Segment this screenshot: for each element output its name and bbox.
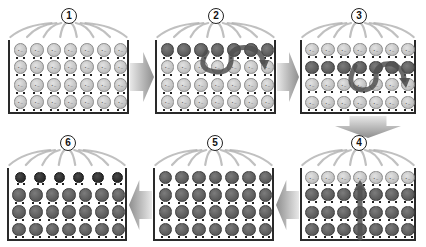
molecule-light: • – [321, 43, 334, 56]
molecule-foot [73, 109, 75, 111]
molecule-face: • – [162, 61, 174, 73]
molecule-light: • – [64, 60, 78, 74]
molecule-foot [178, 184, 180, 186]
molecule-foot [88, 236, 90, 238]
molecule-foot [218, 219, 220, 221]
molecule-foot [411, 184, 413, 186]
molecule-foot [347, 56, 349, 58]
molecule-dark [159, 205, 173, 219]
molecule-face: • – [354, 79, 365, 90]
molecule-face: • – [386, 44, 397, 55]
molecule-foot [356, 74, 358, 76]
molecule-foot [237, 109, 239, 111]
molecule-foot [379, 201, 381, 203]
molecule-foot [315, 219, 317, 221]
molecule-foot [170, 92, 172, 94]
molecule-foot [107, 74, 109, 76]
molecule-foot [264, 74, 266, 76]
molecule-foot [411, 109, 413, 111]
molecule-face: • – [15, 44, 27, 56]
molecule-foot [262, 184, 264, 186]
molecule-light: • – [385, 96, 398, 109]
molecule-light: • – [114, 43, 128, 57]
molecule-dark [192, 188, 206, 202]
molecule-foot [347, 184, 349, 186]
molecule-dark [385, 206, 398, 219]
molecule-foot [270, 57, 272, 59]
molecule-dark [353, 206, 366, 219]
molecule-dark [337, 188, 350, 201]
molecule-light: • – [353, 78, 366, 91]
molecule-darkest [34, 172, 46, 184]
molecule-foot [315, 109, 317, 111]
step-number-badge: 3 [351, 8, 367, 24]
molecule-foot [230, 109, 232, 111]
step-number-badge: 6 [60, 135, 76, 151]
step-number-badge: 1 [61, 8, 77, 24]
molecule-foot [372, 219, 374, 221]
molecule-foot [211, 236, 213, 238]
molecule-face: • – [115, 96, 127, 108]
molecule-foot [315, 56, 317, 58]
molecule-foot [57, 57, 59, 59]
molecule-foot [115, 219, 117, 221]
molecule-foot [372, 56, 374, 58]
molecule-face: • – [178, 61, 190, 73]
molecule-foot [340, 201, 342, 203]
molecule-foot [268, 202, 270, 204]
molecule-foot [187, 109, 189, 111]
molecule-foot [33, 57, 35, 59]
molecule-foot [356, 109, 358, 111]
molecule-foot [211, 219, 213, 221]
molecule-foot [202, 202, 204, 204]
molecule-foot [254, 57, 256, 59]
molecule-foot [388, 201, 390, 203]
molecule-face: • – [245, 61, 257, 73]
molecule-light: • – [14, 43, 28, 57]
molecule-light: • – [64, 43, 78, 57]
container-box: • –• –• –• –• –• –• –• –• –• –• –• –• –•… [300, 40, 416, 114]
molecule-dark [12, 205, 26, 219]
molecule-dark [369, 206, 382, 219]
molecule-light: • – [385, 171, 398, 184]
molecule-light: • – [30, 43, 44, 57]
molecule-foot [168, 219, 170, 221]
molecule-foot [395, 236, 397, 238]
molecule-face: • – [48, 96, 60, 108]
molecule-dark [244, 43, 258, 57]
molecule-dark [305, 61, 318, 74]
molecule-light: • – [80, 43, 94, 57]
molecule-light: • – [321, 171, 334, 184]
molecule-foot [204, 74, 206, 76]
molecule-light: • – [177, 60, 191, 74]
molecule-light: • – [114, 78, 128, 92]
molecule-light: • – [244, 78, 258, 92]
molecule-dark [242, 188, 256, 202]
molecule-face: • – [65, 79, 77, 91]
molecule-foot [187, 74, 189, 76]
molecule-dark [177, 43, 191, 57]
molecule-face: • – [65, 44, 77, 56]
molecule-light: • – [30, 60, 44, 74]
molecule-foot [252, 184, 254, 186]
molecule-dark [321, 223, 334, 236]
molecule-foot [404, 91, 406, 93]
molecule-foot [73, 92, 75, 94]
molecule-dark [225, 223, 239, 237]
molecule-dark [369, 223, 382, 236]
molecule-foot [114, 183, 116, 185]
process-arrow-right-icon [277, 52, 299, 102]
molecule-dark [12, 223, 26, 237]
molecule-foot [170, 109, 172, 111]
molecule-darkest [15, 172, 27, 184]
molecule-foot [180, 74, 182, 76]
molecule-light: • – [369, 78, 382, 91]
molecule-dark [401, 188, 414, 201]
molecule-foot [211, 202, 213, 204]
molecule-foot [123, 92, 125, 94]
molecule-foot [105, 202, 107, 204]
molecule-face: • – [338, 172, 349, 183]
molecule-foot [356, 219, 358, 221]
molecule-foot [220, 109, 222, 111]
molecule-foot [363, 219, 365, 221]
